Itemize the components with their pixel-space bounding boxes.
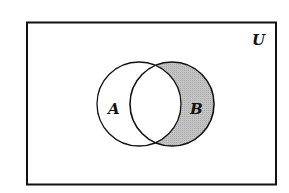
set-b-label: B — [189, 100, 203, 118]
universe-label: U — [252, 31, 266, 49]
venn-diagram: U A B — [0, 0, 289, 193]
set-a-label: A — [106, 100, 120, 118]
